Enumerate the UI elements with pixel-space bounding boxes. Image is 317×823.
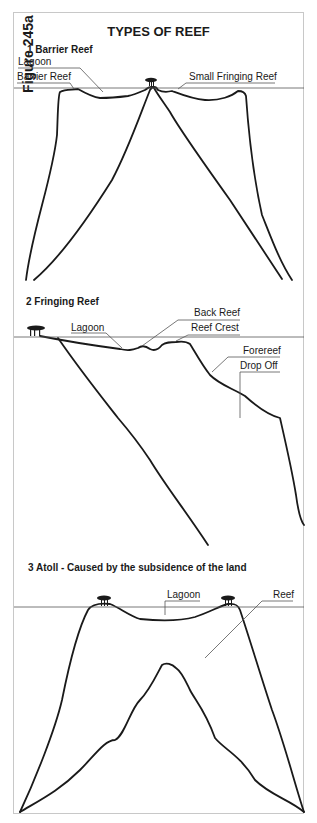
palm-tree-icons [27,78,235,606]
palm-tree-icon-barrier [145,78,157,86]
reef-diagram-art [0,0,317,823]
barrier-reef-outline [26,87,282,280]
atoll-outline [20,604,304,812]
barrier-island-outline [34,87,292,280]
atoll-subsided-island [20,664,304,812]
fringing-reef-profile [40,336,304,525]
palm-tree-icon-fringing [27,326,45,336]
fringing-reef-seafloor [58,338,208,545]
